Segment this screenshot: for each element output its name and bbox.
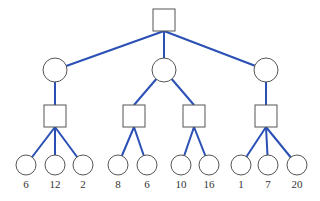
decision-node-square [183,105,205,127]
leaf-node-circle [108,155,128,175]
decision-node-square [123,105,145,127]
leaf-label: 6 [23,178,29,190]
leaf-label: 6 [144,178,150,190]
leaf-label: 1 [238,178,244,190]
chance-node-circle [254,58,278,82]
leaf-label: 7 [265,178,271,190]
chance-node-circle [152,58,176,82]
leaf-node-circle [287,155,307,175]
root-decision-node-square [153,9,175,31]
leaf-label: 10 [176,178,188,190]
leaf-label: 16 [204,178,216,190]
decision-node-square [255,105,277,127]
leaf-label: 2 [80,178,86,190]
leaf-node-circle [231,155,251,175]
leaf-node-circle [137,155,157,175]
chance-node-circle [43,58,67,82]
leaf-label: 20 [292,178,304,190]
leaf-node-circle [45,155,65,175]
leaf-label: 8 [115,178,121,190]
leaf-node-circle [73,155,93,175]
leaf-value-labels: 6 12 2 8 6 10 16 1 7 20 [23,178,303,190]
game-tree-diagram: 6 12 2 8 6 10 16 1 7 20 [0,0,320,201]
leaf-node-circle [171,155,191,175]
tree-edge [55,31,164,70]
leaf-node-circle [16,155,36,175]
leaf-node-circle [258,155,278,175]
tree-nodes [16,9,307,175]
tree-edges [26,31,297,165]
tree-edge [164,31,266,70]
leaf-label: 12 [50,178,61,190]
decision-node-square [44,105,66,127]
leaf-node-circle [199,155,219,175]
